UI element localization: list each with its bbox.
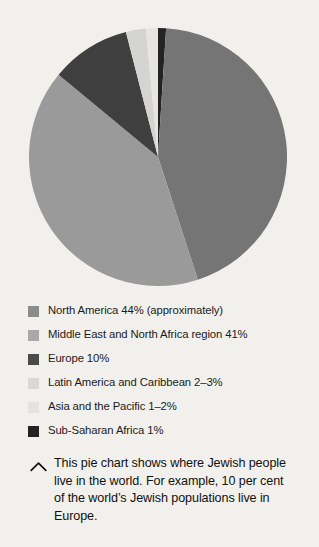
- figure-caption: This pie chart shows where Jewish people…: [0, 455, 319, 525]
- chevron-up-icon: [30, 459, 47, 525]
- legend-item-europe: Europe 10%: [0, 351, 319, 375]
- legend-label-latin-america-caribbean: Latin America and Caribbean 2–3%: [48, 375, 223, 390]
- legend-swatch-latin-america-caribbean: [28, 378, 39, 389]
- legend-label-north-america: North America 44% (approximately): [48, 303, 223, 318]
- legend-label-asia-pacific: Asia and the Pacific 1–2%: [48, 399, 177, 414]
- legend-swatch-north-america: [28, 306, 39, 317]
- chart-legend: North America 44% (approximately) Middle…: [0, 303, 319, 447]
- legend-item-sub-saharan-africa: Sub-Saharan Africa 1%: [0, 423, 319, 447]
- legend-swatch-europe: [28, 354, 39, 365]
- pie-chart-figure: Sub-Saharan Africa 1%North America 44% (…: [0, 0, 319, 547]
- pie-chart-graphic: Sub-Saharan Africa 1%North America 44% (…: [29, 27, 287, 287]
- legend-swatch-asia-pacific: [28, 402, 39, 413]
- legend-item-middle-east-north-africa: Middle East and North Africa region 41%: [0, 327, 319, 351]
- pie-svg: Sub-Saharan Africa 1%North America 44% (…: [29, 27, 287, 287]
- legend-swatch-sub-saharan-africa: [28, 426, 39, 437]
- legend-label-middle-east-north-africa: Middle East and North Africa region 41%: [48, 327, 248, 342]
- legend-swatch-middle-east-north-africa: [28, 330, 39, 341]
- legend-label-europe: Europe 10%: [48, 351, 109, 366]
- caption-text: This pie chart shows where Jewish people…: [54, 455, 294, 525]
- pie-slice-group: Sub-Saharan Africa 1%North America 44% (…: [29, 28, 287, 286]
- legend-label-sub-saharan-africa: Sub-Saharan Africa 1%: [48, 423, 163, 438]
- legend-item-latin-america-caribbean: Latin America and Caribbean 2–3%: [0, 375, 319, 399]
- legend-item-north-america: North America 44% (approximately): [0, 303, 319, 327]
- legend-item-asia-pacific: Asia and the Pacific 1–2%: [0, 399, 319, 423]
